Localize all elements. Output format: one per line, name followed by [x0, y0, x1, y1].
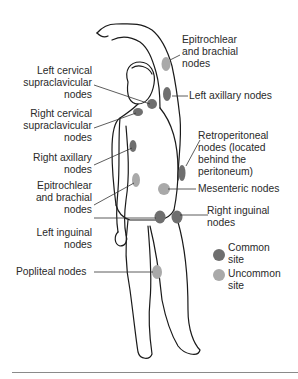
legend-common-dot: [213, 249, 225, 261]
label-right-cervical-supraclavicular: Right cervical supraclavicular nodes: [23, 108, 92, 144]
legend-uncommon-dot: [213, 269, 225, 281]
node-left-cervical: [147, 99, 157, 109]
lymph-node-diagram: Epitrochlear and brachial nodes Left cer…: [0, 0, 298, 379]
label-left-cervical-supraclavicular: Left cervical supraclavicular nodes: [23, 65, 92, 101]
legend-uncommon-label: Uncommon site: [228, 268, 281, 292]
label-mesenteric: Mesenteric nodes: [198, 183, 279, 195]
node-right-axillary: [130, 140, 137, 152]
node-popliteal: [152, 265, 162, 279]
node-left-inguinal: [155, 211, 166, 224]
node-retroperitoneal: [179, 165, 186, 181]
label-retroperitoneal: Retroperitoneal nodes (located behind th…: [198, 130, 268, 178]
label-right-inguinal: Right inguinal nodes: [207, 205, 269, 229]
leader-lines: [94, 55, 208, 272]
label-right-axillary: Right axillary nodes: [33, 152, 92, 176]
node-right-cervical: [133, 108, 143, 116]
node-left-axillary: [163, 87, 171, 101]
bottom-divider: [12, 372, 298, 373]
label-popliteal: Popliteal nodes: [16, 266, 86, 278]
body-outline: [97, 24, 200, 358]
legend-common-label: Common site: [228, 242, 270, 266]
label-left-axillary: Left axillary nodes: [189, 90, 272, 102]
node-epitrochlear-right: [132, 173, 140, 187]
label-epitrochlear-brachial-left: Epitrochlear and brachial nodes: [182, 34, 238, 70]
label-left-inguinal: Left inguinal nodes: [36, 227, 92, 251]
node-epitrochlear-left: [162, 57, 171, 71]
node-right-inguinal: [172, 211, 183, 224]
lymph-nodes: [130, 57, 186, 279]
label-epitrochlear-brachial-right: Epitrochlear and brachial nodes: [36, 180, 92, 216]
